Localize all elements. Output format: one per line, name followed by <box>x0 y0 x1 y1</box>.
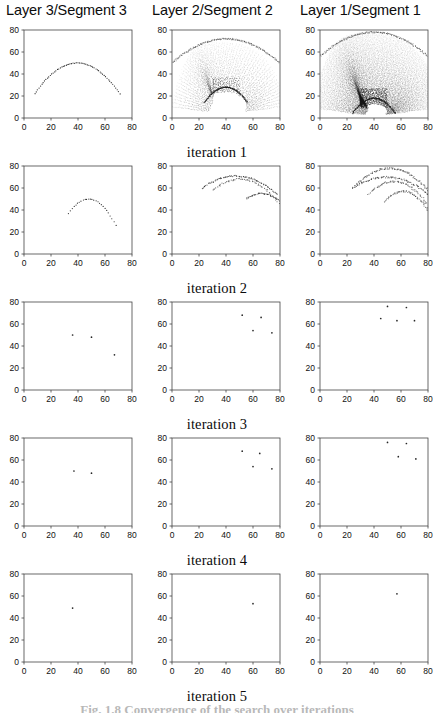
y-tick-label: 80 <box>10 433 20 443</box>
x-tick-label: 20 <box>46 530 56 540</box>
y-tick-label: 40 <box>158 613 168 623</box>
y-tick-label: 60 <box>306 47 316 57</box>
y-tick-label: 60 <box>306 319 316 329</box>
y-tick-label: 0 <box>14 385 19 395</box>
y-tick-label: 0 <box>162 521 167 531</box>
y-tick-label: 0 <box>162 385 167 395</box>
scatter-plot: 020406080020406080 <box>148 296 294 414</box>
x-tick-label: 60 <box>396 666 406 676</box>
y-tick-label: 20 <box>158 227 168 237</box>
x-tick-label: 0 <box>22 666 27 676</box>
figure-caption-text: Fig. 1.8 Convergence of the search over … <box>80 703 354 713</box>
x-tick-label: 80 <box>127 394 137 404</box>
x-tick-label: 80 <box>275 258 285 268</box>
y-tick-label: 80 <box>10 569 20 579</box>
y-tick-label: 20 <box>306 91 316 101</box>
x-tick-label: 60 <box>248 394 258 404</box>
plot-cell-r1-c1: 020406080020406080 <box>0 24 146 142</box>
plot-frame <box>172 302 280 390</box>
data-points <box>241 450 272 469</box>
plot-frame <box>24 166 132 254</box>
x-tick-label: 60 <box>100 394 110 404</box>
y-tick-label: 80 <box>306 297 316 307</box>
plot-frame <box>320 166 428 254</box>
x-tick-label: 0 <box>318 530 323 540</box>
plot-frame <box>172 438 280 526</box>
x-tick-label: 20 <box>194 530 204 540</box>
y-tick-label: 60 <box>158 455 168 465</box>
x-tick-label: 80 <box>127 258 137 268</box>
x-tick-label: 0 <box>170 394 175 404</box>
x-tick-label: 60 <box>396 122 406 132</box>
x-tick-label: 80 <box>275 394 285 404</box>
y-tick-label: 60 <box>306 455 316 465</box>
y-tick-label: 40 <box>306 477 316 487</box>
plot-frame <box>172 166 280 254</box>
x-tick-label: 0 <box>318 258 323 268</box>
x-tick-label: 20 <box>342 122 352 132</box>
scatter-plot: 020406080020406080 <box>148 24 294 142</box>
y-tick-label: 80 <box>10 25 20 35</box>
scatter-plot: 020406080020406080 <box>148 432 294 550</box>
y-tick-label: 40 <box>306 205 316 215</box>
x-tick-label: 20 <box>194 122 204 132</box>
plot-row: 0204060800204060800204060800204060800204… <box>0 24 434 160</box>
x-tick-label: 80 <box>423 666 433 676</box>
x-tick-label: 60 <box>396 530 406 540</box>
plot-cell-r5-c2: 020406080020406080 <box>148 568 294 686</box>
data-points <box>72 334 116 356</box>
plot-row: 0204060800204060800204060800204060800204… <box>0 432 434 568</box>
x-tick-label: 80 <box>423 394 433 404</box>
x-tick-label: 60 <box>396 394 406 404</box>
plot-frame <box>320 302 428 390</box>
data-points <box>202 175 281 204</box>
y-tick-label: 60 <box>158 47 168 57</box>
plot-frame <box>320 438 428 526</box>
y-tick-label: 40 <box>10 69 20 79</box>
plot-cell-r5-c1: 020406080020406080 <box>0 568 146 686</box>
y-tick-label: 0 <box>14 521 19 531</box>
y-tick-label: 60 <box>158 591 168 601</box>
x-tick-label: 80 <box>423 122 433 132</box>
plot-cell-r3-c2: 020406080020406080 <box>148 296 294 414</box>
y-tick-label: 40 <box>158 69 168 79</box>
plot-cell-r4-c2: 020406080020406080 <box>148 432 294 550</box>
y-tick-label: 80 <box>10 297 20 307</box>
y-tick-label: 20 <box>306 227 316 237</box>
x-tick-label: 60 <box>100 666 110 676</box>
y-tick-label: 40 <box>158 205 168 215</box>
plot-cell-r3-c3: 020406080020406080 <box>296 296 434 414</box>
y-tick-label: 20 <box>10 635 20 645</box>
y-tick-label: 20 <box>158 363 168 373</box>
plot-grid: 0204060800204060800204060800204060800204… <box>0 24 434 704</box>
column-title-layer1: Layer 1/Segment 1 <box>300 2 421 18</box>
y-tick-label: 20 <box>10 499 20 509</box>
x-tick-label: 20 <box>342 666 352 676</box>
y-tick-label: 40 <box>306 613 316 623</box>
x-tick-label: 0 <box>318 122 323 132</box>
x-tick-label: 40 <box>73 666 83 676</box>
x-tick-label: 0 <box>318 666 323 676</box>
y-tick-label: 20 <box>10 363 20 373</box>
scatter-plot: 020406080020406080 <box>0 432 146 550</box>
y-tick-label: 40 <box>158 341 168 351</box>
x-tick-label: 60 <box>248 530 258 540</box>
y-tick-label: 80 <box>306 433 316 443</box>
x-tick-label: 40 <box>369 394 379 404</box>
plot-cell-r2-c3: 020406080020406080 <box>296 160 434 278</box>
scatter-plot: 020406080020406080 <box>0 296 146 414</box>
x-tick-label: 80 <box>127 666 137 676</box>
x-tick-label: 40 <box>73 394 83 404</box>
figure-caption: Fig. 1.8 Convergence of the search over … <box>0 699 434 713</box>
scatter-plot: 020406080020406080 <box>296 568 434 686</box>
scatter-plot: 020406080020406080 <box>296 296 434 414</box>
y-tick-label: 0 <box>162 113 167 123</box>
scatter-plot: 020406080020406080 <box>0 24 146 142</box>
y-tick-label: 60 <box>306 591 316 601</box>
y-tick-label: 20 <box>158 499 168 509</box>
x-tick-label: 20 <box>46 258 56 268</box>
plot-frame <box>24 302 132 390</box>
x-tick-label: 0 <box>170 530 175 540</box>
iteration-label-2: iteration 2 <box>0 280 434 297</box>
x-tick-label: 20 <box>194 394 204 404</box>
